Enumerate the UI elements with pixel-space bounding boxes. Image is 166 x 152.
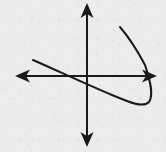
graph-figure [0, 0, 166, 152]
curve-group [33, 27, 151, 105]
parabola-curve [33, 27, 151, 105]
coordinate-graph [0, 0, 166, 152]
axes-group [15, 3, 157, 147]
